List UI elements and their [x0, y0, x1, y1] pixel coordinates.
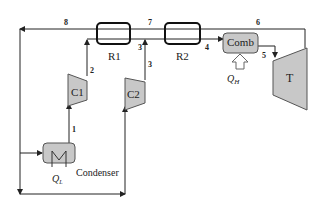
- r1-label: R1: [108, 50, 121, 62]
- state-7: 7: [148, 18, 152, 27]
- state-2: 2: [90, 66, 94, 75]
- recuperator-r2[interactable]: [165, 23, 200, 44]
- comb-label: Comb: [227, 36, 254, 48]
- state-6: 6: [256, 18, 260, 27]
- turbine-label: T: [286, 71, 294, 85]
- recuperator-r1[interactable]: [97, 23, 130, 44]
- state-4: 4: [205, 43, 209, 52]
- state-3-junction: 3: [138, 43, 142, 52]
- heat-input-arrow-icon: [232, 54, 248, 69]
- cycle-diagram: R1 R2 C1 C2 Comb QH T Condenser QL 1 2 3…: [0, 0, 323, 207]
- state-3: 3: [148, 60, 152, 69]
- ql-label: QL: [52, 173, 63, 185]
- condenser-label: Condenser: [76, 167, 119, 178]
- qh-label: QH: [227, 73, 240, 86]
- c2-label: C2: [127, 88, 140, 100]
- c1-label: C1: [71, 86, 84, 98]
- state-8: 8: [64, 18, 68, 27]
- r2-label: R2: [176, 50, 189, 62]
- state-1: 1: [72, 125, 76, 134]
- state-5: 5: [262, 51, 266, 60]
